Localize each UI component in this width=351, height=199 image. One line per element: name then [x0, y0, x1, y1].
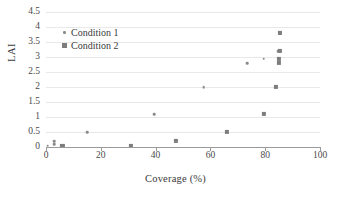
y-axis-title: LAI [6, 43, 17, 62]
legend: Condition 1 Condition 2 [58, 26, 119, 52]
x-tick-label: 100 [313, 150, 327, 160]
x-tick-label: 40 [151, 150, 161, 160]
legend-marker-square-icon [58, 43, 71, 48]
x-tick-label: 20 [96, 150, 106, 160]
x-axis-tick-labels: 020406080100 [0, 0, 351, 199]
legend-marker-circle-icon [58, 31, 71, 34]
x-tick-label: 0 [44, 150, 49, 160]
legend-label: Condition 1 [71, 26, 119, 39]
x-axis-title: Coverage (%) [0, 173, 351, 184]
legend-item-condition-1: Condition 1 [58, 26, 119, 39]
legend-item-condition-2: Condition 2 [58, 39, 119, 52]
x-tick-label: 80 [260, 150, 270, 160]
scatter-chart-figure: 00.511.522.533.544.5 020406080100 LAI Co… [0, 0, 351, 199]
legend-label: Condition 2 [71, 39, 119, 52]
x-tick-label: 60 [206, 150, 216, 160]
